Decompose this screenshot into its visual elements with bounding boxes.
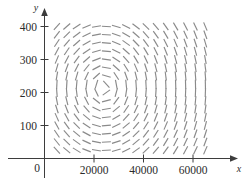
slope-segment — [133, 40, 139, 46]
slope-segment — [195, 96, 196, 105]
slope-segment — [102, 100, 111, 102]
slope-segment — [166, 88, 167, 97]
slope-segment — [56, 96, 58, 105]
slope-segment — [86, 80, 87, 89]
slope-segment — [73, 131, 80, 137]
slope-segment — [185, 105, 187, 114]
slope-segment — [56, 63, 59, 72]
slope-segment — [54, 139, 60, 146]
slope-segment — [112, 41, 120, 44]
slope-segment — [112, 33, 121, 36]
slope-segment — [153, 138, 158, 145]
slope-segment — [56, 105, 59, 114]
slope-segment — [143, 39, 148, 46]
y-axis-arrowhead — [41, 8, 48, 16]
slope-segment — [145, 96, 147, 105]
slope-segment — [123, 114, 129, 121]
x-axis-arrowhead — [230, 155, 238, 162]
x-tick-label: 20000 — [80, 164, 109, 176]
slope-field-segments — [54, 22, 207, 154]
slope-segment — [66, 72, 68, 81]
slope-segment — [194, 121, 197, 130]
y-tick-label: 300 — [20, 54, 38, 66]
slope-segment — [122, 148, 130, 152]
y-tick-label: 100 — [20, 120, 38, 132]
slope-segment — [132, 148, 139, 153]
slope-segment — [164, 55, 167, 64]
slope-segment — [155, 72, 156, 81]
slope-segment — [64, 40, 70, 47]
slope-segment — [164, 47, 167, 55]
slope-segment — [102, 117, 111, 118]
slope-segment — [204, 138, 207, 146]
slope-segment — [73, 148, 81, 153]
x-tick-label: 40000 — [129, 164, 158, 176]
slope-segment — [55, 122, 59, 130]
slope-segment — [205, 72, 206, 81]
slope-segment — [93, 66, 101, 70]
slope-segment — [54, 130, 59, 137]
direction-field-figure: 200004000060000 100200300400 0 x y — [0, 0, 248, 188]
slope-segment — [56, 72, 58, 81]
slope-segment — [112, 149, 121, 151]
slope-segment — [93, 98, 100, 104]
slope-segment — [204, 31, 207, 39]
slope-segment — [174, 138, 178, 146]
slope-segment — [194, 113, 196, 122]
slope-segment — [185, 55, 187, 64]
slope-segment — [165, 72, 166, 81]
slope-segment — [184, 130, 187, 138]
slope-segment — [113, 65, 120, 71]
slope-segment — [112, 57, 120, 62]
slope-segment — [65, 113, 69, 121]
slope-segment — [95, 88, 99, 96]
slope-segment — [55, 113, 59, 121]
slope-segment — [175, 72, 176, 81]
slope-segment — [112, 49, 120, 53]
slope-segment — [112, 25, 121, 28]
slope-segment — [146, 88, 147, 97]
slope-segment — [195, 72, 196, 81]
slope-segment — [174, 31, 178, 39]
slope-segment — [115, 80, 117, 89]
slope-segment — [64, 130, 70, 137]
slope-segment — [143, 139, 149, 146]
slope-segment — [102, 108, 111, 109]
slope-segment — [163, 31, 168, 39]
slope-segment — [133, 48, 139, 55]
slope-segment — [175, 63, 177, 72]
slope-segment — [82, 140, 90, 144]
slope-segment — [92, 150, 101, 152]
slope-segment — [123, 56, 129, 63]
slope-segment — [114, 72, 119, 80]
slope-segment — [112, 124, 120, 128]
slope-segment — [123, 123, 130, 129]
slope-segment — [102, 142, 111, 143]
slope-segment — [92, 50, 101, 53]
y-axis-label: y — [33, 2, 39, 13]
slope-segment — [194, 39, 197, 48]
slope-segment — [112, 141, 121, 144]
slope-segment — [204, 39, 207, 48]
slope-segment — [66, 96, 68, 105]
slope-segment — [173, 23, 178, 31]
slope-segment — [194, 130, 197, 138]
slope-segment — [174, 130, 178, 138]
slope-segment — [174, 121, 177, 129]
slope-segment — [144, 47, 149, 55]
slope-segment — [195, 105, 196, 114]
slope-segment — [133, 131, 139, 137]
slope-segment — [92, 133, 101, 135]
slope-segment — [95, 80, 98, 89]
slope-segment — [102, 26, 111, 27]
slope-segment — [174, 39, 178, 47]
slope-segment — [165, 96, 166, 105]
slope-segment — [163, 23, 168, 30]
slope-segment — [154, 121, 158, 129]
slope-segment — [204, 113, 206, 122]
slope-segment — [64, 139, 70, 145]
slope-segment — [204, 129, 207, 138]
slope-segment — [122, 131, 129, 136]
slope-segment — [54, 31, 60, 38]
slope-segment — [102, 51, 111, 52]
